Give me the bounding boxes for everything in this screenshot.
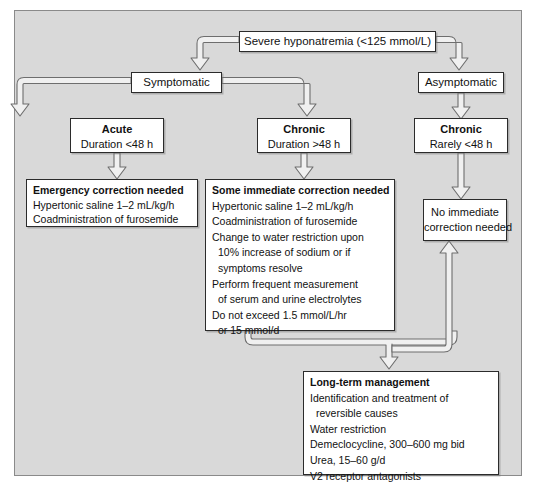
body-line: Coadministration of furosemide — [212, 214, 394, 230]
severe-label: Severe hyponatremia (<125 mmol/L) — [240, 32, 435, 51]
node-symptomatic: Symptomatic — [131, 72, 222, 93]
node-long-term-management: Long-term management Identification and … — [303, 371, 499, 475]
body-line: V2 receptor antagonists — [310, 469, 498, 485]
body-line: Perform frequent measurement — [212, 277, 394, 293]
emergency-correction-lines: Hypertonic saline 1–2 mL/kg/hCoadministr… — [33, 198, 197, 227]
body-line: Hypertonic saline 1–2 mL/kg/h — [33, 198, 197, 213]
node-chronic-symptomatic: Chronic Duration >48 h — [257, 118, 351, 153]
no-immediate-correction-line1: No immediate — [424, 205, 506, 220]
node-asymptomatic: Asymptomatic — [418, 72, 504, 93]
diagram-page: .conn { fill: #f0f0f0; stroke: #6e6e6e; … — [0, 0, 536, 486]
node-some-immediate-correction: Some immediate correction needed Hyperto… — [205, 179, 395, 331]
node-severe-hyponatremia: Severe hyponatremia (<125 mmol/L) — [239, 31, 436, 52]
body-line: 10% increase of sodium or if — [212, 245, 394, 261]
node-emergency-correction: Emergency correction needed Hypertonic s… — [26, 179, 198, 227]
node-no-immediate-correction: No immediate correction needed — [423, 199, 507, 241]
body-line: Change to water restriction upon — [212, 230, 394, 246]
asymptomatic-label: Asymptomatic — [419, 73, 503, 92]
chronic-symptomatic-subtitle: Duration >48 h — [258, 137, 350, 152]
body-line: Identification and treatment of — [310, 391, 498, 407]
body-line: reversible causes — [310, 406, 498, 422]
body-line: of serum and urine electrolytes — [212, 292, 394, 308]
body-line: or 15 mmol/d — [212, 323, 394, 339]
long-term-management-title: Long-term management — [310, 375, 498, 391]
no-immediate-correction-line2: correction needed — [424, 220, 506, 235]
body-line: Water restriction — [310, 422, 498, 438]
node-chronic-asymptomatic: Chronic Rarely <48 h — [414, 118, 508, 153]
chronic-symptomatic-title: Chronic — [258, 122, 350, 137]
chronic-asymptomatic-subtitle: Rarely <48 h — [415, 137, 507, 152]
some-immediate-correction-title: Some immediate correction needed — [212, 183, 394, 199]
body-line: Demeclocycline, 300–600 mg bid — [310, 437, 498, 453]
node-acute: Acute Duration <48 h — [70, 118, 164, 153]
acute-title: Acute — [71, 122, 163, 137]
chronic-asymptomatic-title: Chronic — [415, 122, 507, 137]
symptomatic-label: Symptomatic — [132, 73, 221, 92]
body-line: Do not exceed 1.5 mmol/L/hr — [212, 308, 394, 324]
acute-subtitle: Duration <48 h — [71, 137, 163, 152]
body-line: Urea, 15–60 g/d — [310, 453, 498, 469]
long-term-management-lines: Identification and treatment ofreversibl… — [310, 391, 498, 485]
body-line: Coadministration of furosemide — [33, 212, 197, 227]
emergency-correction-title: Emergency correction needed — [33, 183, 197, 198]
some-immediate-correction-lines: Hypertonic saline 1–2 mL/kg/hCoadministr… — [212, 199, 394, 339]
body-line: symptoms resolve — [212, 261, 394, 277]
body-line: Hypertonic saline 1–2 mL/kg/h — [212, 199, 394, 215]
